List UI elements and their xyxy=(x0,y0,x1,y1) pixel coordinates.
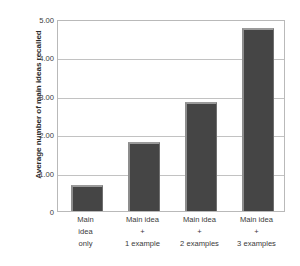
bar-slot xyxy=(242,21,274,211)
y-axis-tick-label: 5.00 xyxy=(28,16,54,25)
x-axis-tick-label-line: Main xyxy=(57,214,114,226)
x-axis-tick-label: Main idea+3 examples xyxy=(228,214,285,250)
x-axis-tick-label: Main idea+1 example xyxy=(114,214,171,250)
bar-chart-figure: Average number of main ideas recalled 01… xyxy=(0,0,300,266)
y-axis-tick-label: 1.00 xyxy=(28,169,54,178)
x-axis-tick-label-line: Main idea xyxy=(228,214,285,226)
x-axis-tick-label-line: + xyxy=(228,226,285,238)
x-axis-tick-label: Main idea+2 examples xyxy=(171,214,228,250)
bar-slot xyxy=(185,21,217,211)
bars-layer xyxy=(58,21,284,211)
x-axis-tick-label-line: Main idea xyxy=(171,214,228,226)
plot-area xyxy=(57,20,285,212)
bar[interactable] xyxy=(71,185,103,211)
x-axis-tick-label-line: + xyxy=(171,226,228,238)
y-axis-tick-label: 0 xyxy=(28,208,54,217)
x-axis-tick-label-line: 1 example xyxy=(114,238,171,250)
y-axis-tick-label: 4.00 xyxy=(28,54,54,63)
y-axis-tick-label: 2.00 xyxy=(28,131,54,140)
x-axis-tick-label-line: Main idea xyxy=(114,214,171,226)
x-axis-tick-label-group: MainideaonlyMain idea+1 exampleMain idea… xyxy=(57,214,285,264)
x-axis-tick-label-line: only xyxy=(57,238,114,250)
bar[interactable] xyxy=(185,102,217,211)
y-axis-tick-label-group: 01.002.003.004.005.00 xyxy=(28,20,54,212)
x-axis-tick-label-line: 2 examples xyxy=(171,238,228,250)
bar-slot xyxy=(128,21,160,211)
x-axis-tick-label-line: 3 examples xyxy=(228,238,285,250)
y-axis-tick-label: 3.00 xyxy=(28,92,54,101)
x-axis-tick-label-line: idea xyxy=(57,226,114,238)
x-axis-tick-label: Mainideaonly xyxy=(57,214,114,250)
bar[interactable] xyxy=(128,142,160,211)
bar[interactable] xyxy=(242,28,274,211)
x-axis-tick-label-line: + xyxy=(114,226,171,238)
bar-slot xyxy=(71,21,103,211)
